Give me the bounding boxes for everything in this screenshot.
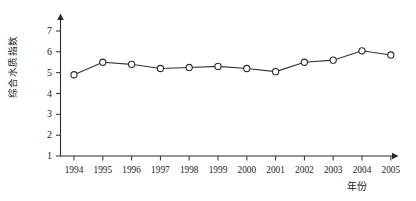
ytick-label-7: 7 bbox=[40, 26, 52, 36]
data-point-1996 bbox=[129, 61, 135, 67]
data-point-2001 bbox=[273, 69, 279, 75]
data-point-1998 bbox=[186, 64, 192, 70]
x-axis-ticks bbox=[74, 156, 391, 161]
data-point-1995 bbox=[100, 59, 106, 65]
x-axis-title: 年份 bbox=[347, 178, 368, 193]
xtick-label-2005: 2005 bbox=[374, 165, 408, 175]
data-point-2003 bbox=[330, 57, 336, 63]
data-point-2005 bbox=[388, 52, 394, 58]
ytick-label-2: 2 bbox=[40, 130, 52, 140]
data-point-1994 bbox=[71, 72, 77, 78]
chart-figure: 1 2 3 4 5 6 7 1994 1995 1996 1997 1998 1… bbox=[0, 0, 416, 201]
ytick-label-4: 4 bbox=[40, 89, 52, 99]
data-series-line bbox=[74, 51, 391, 75]
data-point-markers bbox=[71, 48, 394, 78]
data-point-2002 bbox=[301, 59, 307, 65]
y-axis-title: 综合水质指数 bbox=[5, 36, 19, 98]
ytick-label-5: 5 bbox=[40, 68, 52, 78]
data-point-1999 bbox=[215, 63, 221, 69]
data-point-1997 bbox=[157, 65, 163, 71]
data-point-2004 bbox=[359, 48, 365, 54]
ytick-label-6: 6 bbox=[40, 47, 52, 57]
y-axis-ticks bbox=[56, 31, 61, 156]
data-point-2000 bbox=[244, 65, 250, 71]
ytick-label-3: 3 bbox=[40, 109, 52, 119]
ytick-label-1: 1 bbox=[40, 151, 52, 161]
